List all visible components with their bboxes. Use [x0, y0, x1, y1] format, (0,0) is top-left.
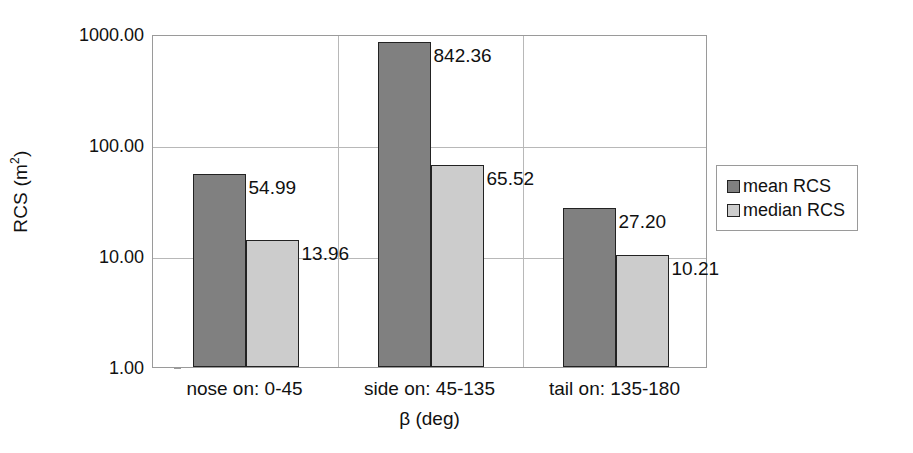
y-axis-tick-label: 10.00: [34, 248, 144, 266]
legend-item-label: median RCS: [743, 201, 845, 219]
y-axis-title-tail: ): [10, 151, 31, 158]
x-axis-tick-label-1: side on: 45-135: [337, 378, 522, 400]
legend-swatch-icon: [727, 180, 740, 193]
y-axis-ticks: 1000.00100.0010.001.00: [30, 35, 144, 368]
legend-item-median[interactable]: median RCS: [727, 199, 845, 221]
legend-swatch-icon: [727, 204, 740, 217]
legend-item-label: mean RCS: [743, 177, 831, 195]
bar-median-1: [431, 165, 484, 367]
bar-value-label: 13.96: [302, 244, 350, 263]
bar-mean-0: [193, 174, 246, 367]
category-separator-gridline: [523, 36, 524, 367]
y-axis-tick-label: 100.00: [34, 137, 144, 155]
y-axis-title-exponent: 2: [8, 157, 22, 164]
bar-value-label: 27.20: [619, 212, 667, 231]
legend-item-mean[interactable]: mean RCS: [727, 175, 845, 197]
plot-area: 54.9913.96842.3665.5227.2010.21: [152, 35, 707, 368]
bar-value-label: 842.36: [434, 46, 492, 65]
bar-mean-2: [563, 208, 616, 367]
rcs-bar-chart: RCS (m2) 1000.00100.0010.001.00 54.9913.…: [0, 0, 913, 453]
y-axis-title-base: RCS (m: [10, 164, 31, 233]
bar-median-2: [616, 255, 669, 367]
y-axis-tick-label: 1000.00: [34, 26, 144, 44]
y-axis-tick-mark: [174, 368, 181, 369]
category-separator-gridline: [338, 36, 339, 367]
y-axis-title: RCS (m2): [8, 132, 31, 252]
x-axis-tick-label-2: tail on: 135-180: [522, 378, 707, 400]
bar-median-0: [246, 240, 299, 367]
x-axis-title: β (deg): [152, 408, 707, 430]
bar-value-label: 10.21: [672, 259, 720, 278]
x-axis-tick-label-0: nose on: 0-45: [152, 378, 337, 400]
x-axis-ticks: nose on: 0-45side on: 45-135tail on: 135…: [152, 378, 707, 404]
bar-mean-1: [378, 42, 431, 367]
bar-value-label: 65.52: [487, 169, 535, 188]
y-axis-tick-label: 1.00: [34, 359, 144, 377]
bar-value-label: 54.99: [249, 178, 297, 197]
chart-legend: mean RCSmedian RCS: [716, 165, 858, 231]
